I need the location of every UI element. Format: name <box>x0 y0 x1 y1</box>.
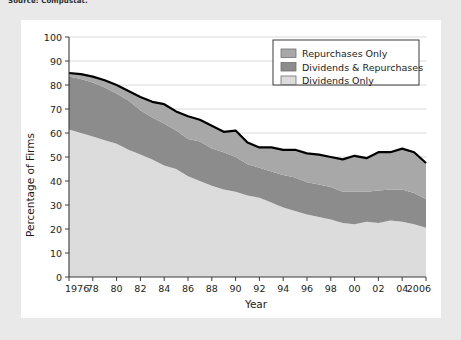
stacked-area-chart: 197678808284868890929496980002042006 010… <box>21 20 441 318</box>
legend-label-2: Dividends Only <box>302 75 374 86</box>
figure-panel: 197678808284868890929496980002042006 010… <box>21 20 441 318</box>
y-tick-label-90: 90 <box>50 56 62 67</box>
x-tick-label-2002: 02 <box>372 283 384 294</box>
chart-legend: Repurchases OnlyDividends & RepurchasesD… <box>273 40 423 86</box>
x-tick-group: 197678808284868890929496980002042006 <box>65 277 431 294</box>
x-tick-label-1996: 96 <box>301 283 313 294</box>
x-tick-label-1992: 92 <box>253 283 265 294</box>
x-tick-label-2006: 2006 <box>407 283 431 294</box>
x-tick-label-1980: 80 <box>111 283 123 294</box>
y-tick-label-40: 40 <box>50 176 62 187</box>
legend-swatch-2 <box>281 76 296 85</box>
x-tick-label-1998: 98 <box>325 283 337 294</box>
x-axis-title: Year <box>244 298 268 310</box>
y-tick-label-60: 60 <box>50 128 62 139</box>
x-tick-label-1982: 82 <box>134 283 146 294</box>
x-tick-label-1988: 88 <box>206 283 218 294</box>
x-tick-label-1990: 90 <box>230 283 242 294</box>
y-tick-label-0: 0 <box>56 272 62 283</box>
x-tick-label-1984: 84 <box>158 283 170 294</box>
y-tick-label-50: 50 <box>50 152 62 163</box>
x-tick-label-1978: 78 <box>87 283 99 294</box>
legend-swatch-0 <box>281 49 296 58</box>
x-tick-label-1986: 86 <box>182 283 194 294</box>
x-tick-label-1994: 94 <box>277 283 289 294</box>
y-tick-label-30: 30 <box>50 200 62 211</box>
legend-label-1: Dividends & Repurchases <box>302 62 423 73</box>
y-tick-label-100: 100 <box>44 32 62 43</box>
y-tick-label-80: 80 <box>50 80 62 91</box>
x-tick-label-2000: 00 <box>349 283 361 294</box>
legend-swatch-1 <box>281 63 296 72</box>
y-tick-label-70: 70 <box>50 104 62 115</box>
y-tick-label-20: 20 <box>50 224 62 235</box>
y-tick-group: 0102030405060708090100 <box>44 32 69 283</box>
legend-label-0: Repurchases Only <box>302 48 388 59</box>
x-tick-label-1976: 1976 <box>65 283 89 294</box>
source-note: Source: Compustat. <box>8 0 88 5</box>
area-series-group <box>69 73 426 277</box>
y-axis-title: Percentage of Firms <box>24 133 36 237</box>
y-tick-label-10: 10 <box>50 248 62 259</box>
